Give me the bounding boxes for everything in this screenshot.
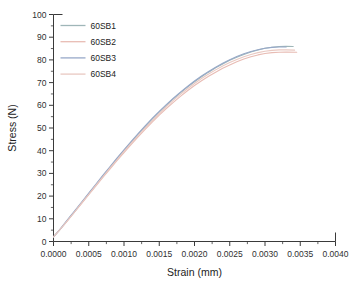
x-tick-label: 0.0035	[287, 249, 313, 259]
x-tick-label: 0.0000	[41, 249, 67, 259]
x-tick-label: 0.0020	[182, 249, 208, 259]
x-tick-label: 0.0030	[252, 249, 278, 259]
legend-label-60sb1: 60SB1	[91, 21, 117, 31]
y-tick-label: 30	[37, 168, 47, 178]
x-tick-label: 0.0005	[76, 249, 102, 259]
legend-label-60sb2: 60SB2	[91, 37, 117, 47]
y-tick-label: 0	[42, 237, 47, 247]
y-tick-label: 90	[37, 32, 47, 42]
x-axis-title: Strain (mm)	[167, 266, 222, 278]
y-tick-label: 70	[37, 78, 47, 88]
y-tick-label: 60	[37, 100, 47, 110]
y-axis-title: Stress (N)	[6, 104, 18, 151]
x-tick-label: 0.0015	[146, 249, 172, 259]
legend-label-60sb4: 60SB4	[91, 69, 117, 79]
x-tick-label: 0.0025	[217, 249, 243, 259]
legend-label-60sb3: 60SB3	[91, 53, 117, 63]
y-tick-label: 20	[37, 191, 47, 201]
y-tick-label: 50	[37, 123, 47, 133]
x-tick-label: 0.0010	[111, 249, 137, 259]
chart-canvas: 0102030405060708090100 0.00000.00050.001…	[0, 0, 359, 296]
y-tick-label: 80	[37, 55, 47, 65]
stress-strain-chart: 0102030405060708090100 0.00000.00050.001…	[0, 0, 359, 296]
y-tick-label: 100	[32, 10, 46, 20]
x-tick-label: 0.0040	[323, 249, 349, 259]
y-tick-label: 40	[37, 146, 47, 156]
y-tick-label: 10	[37, 214, 47, 224]
